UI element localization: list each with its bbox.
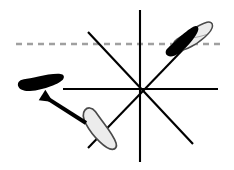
movement-arrow bbox=[39, 90, 86, 123]
filled-footprint-left bbox=[17, 73, 65, 93]
diagram-svg bbox=[0, 0, 234, 170]
diagram-canvas bbox=[0, 0, 234, 170]
outline-footprint-lower bbox=[79, 105, 119, 155]
